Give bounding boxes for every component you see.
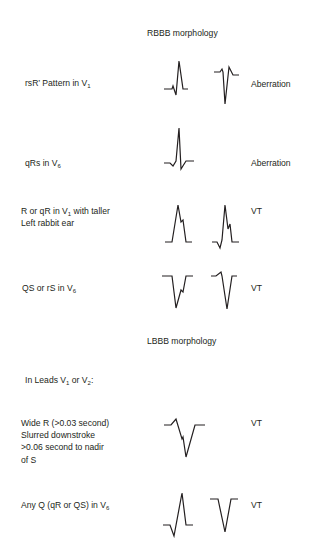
lead-subscript: 6 bbox=[106, 505, 109, 511]
result-vt: VT bbox=[251, 418, 262, 430]
intro-text: In Leads V bbox=[25, 375, 66, 385]
result-vt: VT bbox=[251, 206, 262, 218]
criterion-rsr-prime-v1: rsR’ Pattern in V1 bbox=[25, 78, 91, 90]
waveform-qr-v6 bbox=[163, 491, 203, 541]
criterion-text: qRs in V bbox=[25, 158, 57, 168]
waveform-wide-r-slurred-s bbox=[164, 417, 214, 462]
intro-text: : bbox=[91, 375, 93, 385]
waveform-qrs bbox=[164, 126, 199, 171]
lbbb-section-title: LBBB morphology bbox=[147, 336, 216, 348]
waveform-qs-notched bbox=[162, 274, 197, 314]
criterion-r-qr-v1-taller-left-ear: R or qR in V1 with taller Left rabbit ea… bbox=[21, 206, 110, 229]
criterion-text: QS or rS in V bbox=[22, 283, 73, 293]
criterion-wide-r-slurred: Wide R (>0.03 second) Slurred downstroke… bbox=[21, 417, 109, 466]
waveform-rs-notched bbox=[213, 62, 243, 107]
criterion-text: Left rabbit ear bbox=[21, 218, 74, 228]
criterion-text: R or qR in V bbox=[21, 206, 68, 216]
criterion-qs-rs-v6: QS or rS in V6 bbox=[22, 283, 76, 295]
waveform-rs bbox=[211, 271, 246, 313]
waveform-r-taller-left-ear bbox=[165, 202, 195, 247]
criterion-qrs-v6: qRs in V6 bbox=[25, 158, 61, 170]
lead-subscript: 6 bbox=[57, 163, 60, 169]
criterion-line: of S bbox=[21, 455, 36, 465]
criterion-any-q-v6: Any Q (qR or QS) in V6 bbox=[21, 500, 109, 512]
lead-subscript: 1 bbox=[87, 83, 90, 89]
lead-subscript: 6 bbox=[73, 288, 76, 294]
rbbb-section-title: RBBB morphology bbox=[147, 28, 218, 40]
criterion-line: >0.06 second to nadir bbox=[21, 442, 104, 452]
waveform-qs-v6 bbox=[210, 497, 245, 539]
criterion-line: Slurred downstroke bbox=[21, 430, 95, 440]
criterion-text: rsR’ Pattern in V bbox=[25, 78, 87, 88]
criterion-line: Wide R (>0.03 second) bbox=[21, 418, 109, 428]
criterion-text: with taller bbox=[71, 206, 110, 216]
waveform-rsr-prime bbox=[164, 58, 194, 98]
waveform-qr-taller-left-ear bbox=[212, 202, 242, 252]
result-vt: VT bbox=[251, 500, 262, 512]
criterion-text: Any Q (qR or QS) in V bbox=[21, 500, 106, 510]
intro-text: or V bbox=[69, 375, 87, 385]
result-vt: VT bbox=[251, 283, 262, 295]
result-aberration: Aberration bbox=[251, 158, 291, 170]
result-aberration: Aberration bbox=[251, 79, 291, 91]
lbbb-intro-leads: In Leads V1 or V2: bbox=[25, 375, 93, 387]
